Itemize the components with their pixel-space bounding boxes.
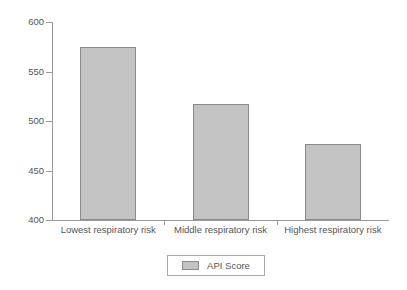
y-axis-tick-label: 550 xyxy=(0,67,44,77)
bar-chart: 400450500550600 Lowest respiratory riskM… xyxy=(0,0,407,290)
y-axis-tick-mark xyxy=(46,220,52,221)
bar xyxy=(193,104,249,220)
plot-area xyxy=(52,22,389,220)
y-axis-tick-label: 500 xyxy=(0,116,44,126)
y-axis-tick-label: 600 xyxy=(0,17,44,27)
y-axis-tick-label: 400 xyxy=(0,215,44,225)
x-axis-category-label: Highest respiratory risk xyxy=(277,225,389,235)
chart-legend: API Score xyxy=(167,255,265,276)
x-axis-category-label: Middle respiratory risk xyxy=(164,225,276,235)
y-axis-tick-label: 450 xyxy=(0,166,44,176)
legend-label-api-score: API Score xyxy=(207,261,250,271)
bar xyxy=(80,47,136,220)
x-axis-category-label: Lowest respiratory risk xyxy=(52,225,164,235)
x-axis-line xyxy=(52,220,389,221)
legend-swatch-api-score xyxy=(182,261,199,270)
bar xyxy=(305,144,361,220)
